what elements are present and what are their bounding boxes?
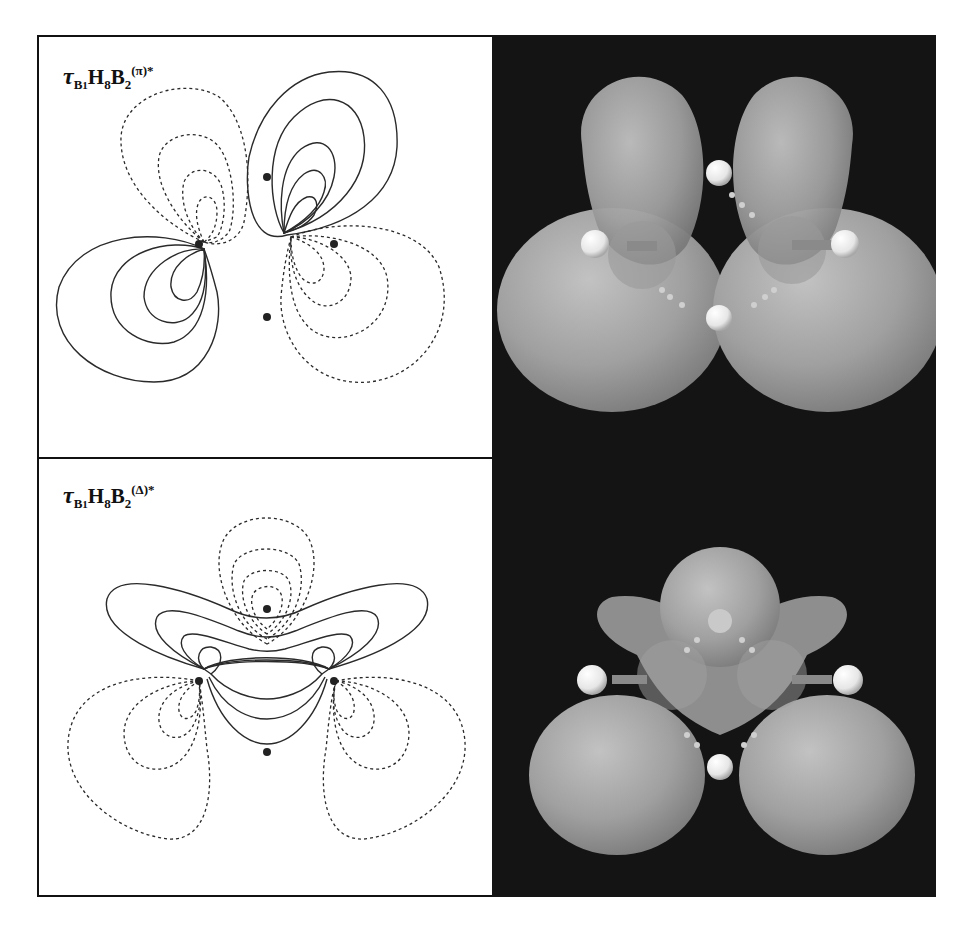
isosurface-delta xyxy=(529,547,915,855)
contour-panel-pi: τB1H8B2(π)* xyxy=(39,37,494,457)
atom-marker xyxy=(263,173,271,181)
isosurface-pi xyxy=(497,77,936,412)
contour-panel-delta: τB1H8B2(Δ)* xyxy=(39,459,494,899)
orbital-figure: τB1H8B2(π)* xyxy=(37,35,936,897)
isosurface-renderings xyxy=(492,35,936,897)
isosurface-column xyxy=(492,35,936,897)
contour-plot-pi xyxy=(39,37,494,457)
contour-column: τB1H8B2(π)* xyxy=(37,35,492,897)
contour-plot-delta xyxy=(39,459,494,899)
